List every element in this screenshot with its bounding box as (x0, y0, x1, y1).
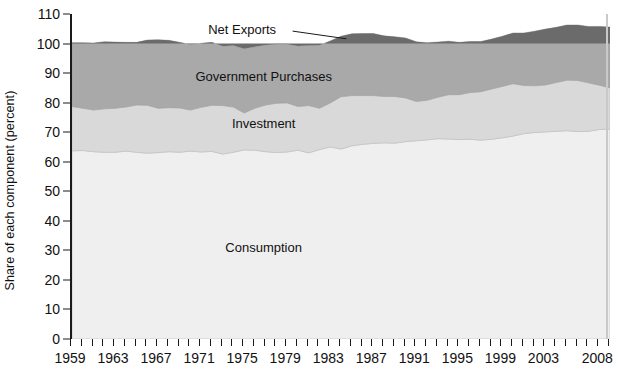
x-tick-label: 1963 (97, 350, 128, 366)
x-tick-mark (328, 339, 329, 346)
x-tick-mark (81, 339, 82, 346)
y-tick-label: 40 (26, 213, 60, 229)
x-tick-mark (199, 339, 200, 346)
x-tick-mark (479, 339, 480, 346)
x-tick-mark (124, 339, 125, 346)
y-tick-mark (63, 309, 70, 310)
x-tick-mark (156, 339, 157, 346)
x-tick-label: 1975 (227, 350, 258, 366)
x-tick-mark (221, 339, 222, 346)
y-tick-label: 50 (26, 183, 60, 199)
x-tick-mark (92, 339, 93, 346)
x-tick-mark (167, 339, 168, 346)
x-tick-mark (414, 339, 415, 346)
x-tick-mark (242, 339, 243, 346)
x-tick-mark (70, 339, 71, 346)
x-tick-mark (436, 339, 437, 346)
y-tick-mark (63, 132, 70, 133)
x-tick-mark (457, 339, 458, 346)
y-tick-mark (63, 339, 70, 340)
y-tick-label: 30 (26, 242, 60, 258)
y-tick-mark (63, 102, 70, 103)
y-tick-label: 90 (26, 65, 60, 81)
x-tick-mark (135, 339, 136, 346)
y-tick-mark (63, 161, 70, 162)
x-tick-label: 1971 (184, 350, 215, 366)
plot-right-border (606, 14, 608, 339)
x-tick-mark (113, 339, 114, 346)
x-tick-mark (554, 339, 555, 346)
x-tick-label: 1995 (442, 350, 473, 366)
y-tick-mark (63, 220, 70, 221)
x-tick-mark (500, 339, 501, 346)
x-tick-mark (511, 339, 512, 346)
x-tick-mark (468, 339, 469, 346)
x-tick-label: 1967 (141, 350, 172, 366)
x-tick-mark (350, 339, 351, 346)
x-tick-mark (404, 339, 405, 346)
x-tick-label: 1999 (485, 350, 516, 366)
x-tick-label: 1983 (313, 350, 344, 366)
x-tick-label: 1987 (356, 350, 387, 366)
y-tick-label: 100 (26, 36, 60, 52)
x-tick-mark (490, 339, 491, 346)
y-tick-mark (63, 191, 70, 192)
y-tick-label: 80 (26, 95, 60, 111)
x-tick-mark (522, 339, 523, 346)
x-tick-mark (307, 339, 308, 346)
x-tick-label: 1991 (399, 350, 430, 366)
x-tick-label: 2003 (528, 350, 559, 366)
x-tick-mark (576, 339, 577, 346)
x-tick-mark (608, 339, 609, 346)
x-tick-mark (425, 339, 426, 346)
x-tick-mark (231, 339, 232, 346)
band-label-investment: Investment (232, 116, 296, 131)
x-tick-mark (188, 339, 189, 346)
x-tick-mark (102, 339, 103, 346)
x-tick-mark (361, 339, 362, 346)
y-tick-mark (63, 43, 70, 44)
x-tick-label: 1979 (270, 350, 301, 366)
y-tick-label: 70 (26, 124, 60, 140)
x-tick-mark (264, 339, 265, 346)
x-tick-mark (543, 339, 544, 346)
x-tick-mark (317, 339, 318, 346)
x-tick-mark (371, 339, 372, 346)
x-tick-mark (447, 339, 448, 346)
y-tick-mark (63, 250, 70, 251)
x-tick-mark (339, 339, 340, 346)
band-label-government-purchases: Government Purchases (195, 69, 332, 84)
stacked-area-chart: Share of each component (percent) 010203… (0, 0, 623, 381)
y-tick-label: 110 (26, 6, 60, 22)
x-tick-mark (565, 339, 566, 346)
x-tick-mark (533, 339, 534, 346)
y-tick-label: 20 (26, 272, 60, 288)
x-tick-mark (210, 339, 211, 346)
y-axis-title: Share of each component (percent) (0, 0, 20, 381)
x-tick-mark (274, 339, 275, 346)
x-tick-label: 2008 (582, 350, 613, 366)
y-tick-label: 10 (26, 301, 60, 317)
x-tick-mark (393, 339, 394, 346)
x-tick-mark (382, 339, 383, 346)
band-label-consumption: Consumption (225, 240, 302, 255)
y-tick-mark (63, 14, 70, 15)
x-tick-mark (285, 339, 286, 346)
plot-area (70, 14, 608, 339)
x-tick-mark (145, 339, 146, 346)
plot-svg (72, 14, 610, 339)
y-tick-mark (63, 73, 70, 74)
x-tick-mark (178, 339, 179, 346)
y-axis-tick-labels: 0102030405060708090100110 (22, 0, 60, 381)
net-exports-leader-line (293, 31, 347, 39)
x-tick-mark (597, 339, 598, 346)
x-tick-label: 1959 (54, 350, 85, 366)
x-tick-mark (586, 339, 587, 346)
band-label-net-exports: Net Exports (208, 21, 276, 36)
y-tick-mark (63, 279, 70, 280)
y-tick-label: 60 (26, 154, 60, 170)
x-tick-mark (253, 339, 254, 346)
x-tick-mark (296, 339, 297, 346)
y-tick-label: 0 (26, 331, 60, 347)
area-consumption (72, 129, 610, 339)
